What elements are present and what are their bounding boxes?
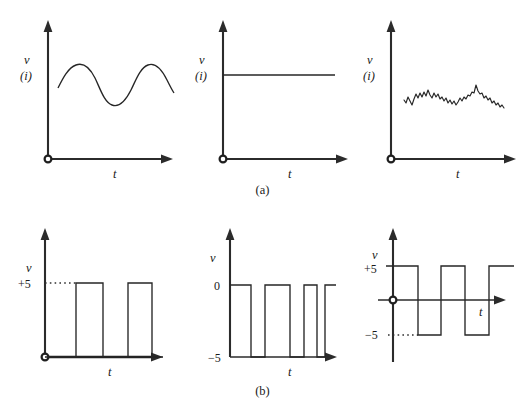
x-axis-arrowhead [336,155,348,164]
x-axis-arrowhead [325,353,337,362]
y-axis-low-label: −5 [365,328,378,342]
y-axis-arrowhead [387,20,396,32]
origin-marker [45,156,52,163]
y-axis-label-top: v [210,251,216,265]
waveform-figure: v (i) t v (i) t v (i) t (a) [0,0,525,407]
y-axis-label-top: v [26,261,32,275]
x-axis-label: t [288,365,292,379]
caption-row-a: (a) [0,180,525,198]
y-axis-arrowhead [219,20,228,32]
x-axis-label: t [108,365,112,379]
origin-marker [390,297,397,304]
y-axis-label-top: v [372,248,378,262]
y-axis-label-top: v [199,53,205,67]
y-axis-arrowhead [389,228,398,240]
x-axis-label: t [288,167,292,181]
y-axis-arrowhead [41,228,50,240]
y-axis-arrowhead [44,20,53,32]
x-axis-arrowhead [494,296,506,305]
x-axis-arrowhead [161,155,173,164]
y-axis-high-label: +5 [364,262,377,276]
x-axis-label: t [479,305,483,319]
y-axis-low-label: −5 [208,351,221,365]
y-axis-label-bottom: (i) [20,69,32,83]
pulse-train-waveform [45,283,163,357]
x-axis-label: t [456,167,460,181]
sine-waveform [58,64,174,105]
origin-marker [220,156,227,163]
panel-digital-unipolar-negative: v 0 −5 t [175,212,355,387]
panel-digital-bipolar: v +5 −5 t [348,212,525,387]
caption-b-text: (b) [255,384,270,398]
y-axis-label-bottom: (i) [363,69,375,83]
noise-waveform [404,85,504,108]
panel-analog-dc: v (i) t [175,4,355,184]
origin-marker [388,156,395,163]
x-axis-label: t [113,167,117,181]
panel-analog-noise: v (i) t [348,4,525,184]
x-axis-arrowhead [504,155,516,164]
y-axis-level-label: +5 [18,277,31,291]
caption-row-b: (b) [0,381,525,399]
pulse-train-waveform [230,285,336,357]
y-axis-arrowhead [226,228,235,240]
y-axis-label-bottom: (i) [195,69,207,83]
panel-analog-sine: v (i) t [0,4,180,184]
panel-digital-unipolar-positive: v +5 t [0,212,180,387]
y-axis-label-top: v [367,53,373,67]
y-axis-label-top: v [24,53,30,67]
caption-a-text: (a) [256,183,270,197]
y-axis-high-label: 0 [214,279,220,293]
